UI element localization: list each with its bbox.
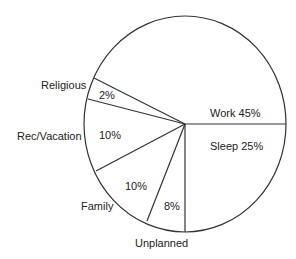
label-sleep: Sleep 25% bbox=[210, 140, 263, 152]
label-unplanned-name: Unplanned bbox=[135, 237, 188, 249]
label-unplanned-pct: 8% bbox=[164, 200, 180, 212]
label-rec-pct: 10% bbox=[99, 129, 121, 141]
label-family-name: Family bbox=[81, 200, 113, 212]
label-rec-name: Rec/Vacation bbox=[17, 130, 82, 142]
label-work: Work 45% bbox=[210, 107, 261, 119]
label-family-pct: 10% bbox=[125, 180, 147, 192]
label-religious-name: Religious bbox=[41, 79, 86, 91]
label-religious-pct: 2% bbox=[99, 89, 115, 101]
